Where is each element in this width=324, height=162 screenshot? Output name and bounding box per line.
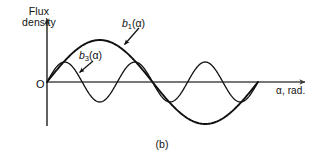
- figure-flux-density-vs-alpha: Flux density α, rad. O b1(α) b3(α) (b): [0, 0, 324, 162]
- curve-label-b1-argument: (α): [132, 17, 145, 29]
- curve-label-b3: b3(α): [79, 50, 102, 63]
- y-axis-label: Flux density: [22, 6, 56, 29]
- curve-label-b1: b1(α): [122, 18, 145, 31]
- x-axis-label: α, rad.: [276, 86, 305, 97]
- origin-label: O: [36, 79, 45, 91]
- figure-caption: (b): [0, 139, 324, 150]
- curve-label-b3-argument: (α): [89, 49, 102, 61]
- y-axis-label-line2: density: [22, 17, 56, 28]
